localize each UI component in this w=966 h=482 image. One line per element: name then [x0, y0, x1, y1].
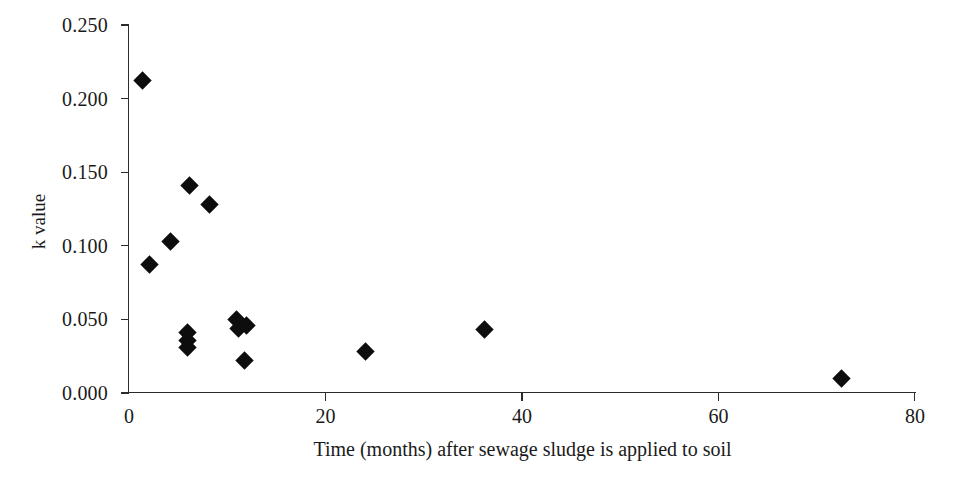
x-axis-tick-label: 0 — [99, 406, 159, 426]
scatter-plot-figure: 0.0000.0500.1000.1500.2000.250 020406080… — [0, 0, 966, 482]
y-axis-tick — [121, 172, 129, 173]
y-axis-tick — [121, 24, 129, 25]
x-axis-end-cap — [914, 393, 915, 401]
y-axis-tick — [121, 98, 129, 99]
x-axis-tick-label: 20 — [296, 406, 356, 426]
x-axis-tick-label: 40 — [492, 406, 552, 426]
y-axis-title: k value — [29, 162, 48, 282]
y-axis-tick — [121, 392, 129, 393]
x-axis-tick-label: 80 — [885, 406, 945, 426]
y-axis-tick-label: 0.050 — [22, 309, 108, 329]
y-axis-tick — [121, 245, 129, 246]
y-axis-tick-label: 0.200 — [22, 89, 108, 109]
y-axis-tick-label: 0.000 — [22, 383, 108, 403]
x-axis-tick — [325, 393, 326, 401]
x-axis-title: Time (months) after sewage sludge is app… — [129, 438, 916, 460]
x-axis-tick-label: 60 — [689, 406, 749, 426]
plot-area — [129, 25, 915, 393]
x-axis-tick — [718, 393, 719, 401]
x-axis-tick — [521, 393, 522, 401]
y-axis-tick-label: 0.250 — [22, 15, 108, 35]
y-axis-tick — [121, 319, 129, 320]
